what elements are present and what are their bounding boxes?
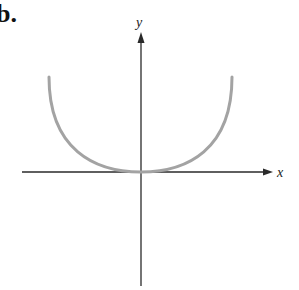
y-axis-label: y (134, 15, 143, 30)
x-axis-arrow-icon (263, 169, 273, 176)
part-label: b. (0, 0, 17, 28)
graph-figure: b. x y (0, 0, 299, 290)
y-axis-arrow-icon (138, 32, 145, 43)
x-axis-label: x (276, 165, 284, 180)
